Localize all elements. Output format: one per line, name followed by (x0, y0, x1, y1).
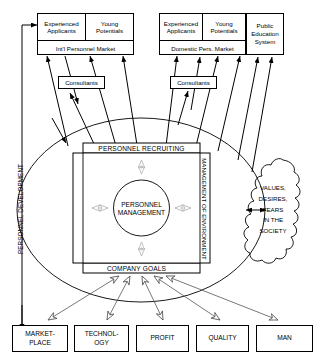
intl-young-line2: Potentials (96, 27, 123, 34)
goal-box-quality: QUALITY (196, 325, 249, 352)
personnel-development-label-wrap: PERSONNEL DEVELOPMENT (15, 149, 25, 269)
center-line1: PERSONNEL (121, 201, 162, 209)
consultants-right-box: Consultants (170, 76, 217, 89)
intl-personnel-market-group: Experienced Applicants Young Potentials … (37, 13, 134, 55)
personnel-recruiting-label-wrap: PERSONNEL RECRUITING (83, 143, 200, 154)
goal-man-line1: MAN (277, 334, 292, 342)
society-line1: VALUES, (260, 183, 286, 194)
goal-marketplace-line1: MARKET- (25, 330, 54, 338)
consultants-left-box: Consultants (58, 76, 105, 89)
goal-technology-line2: OGY (94, 339, 109, 347)
goal-quality-line1: QUALITY (208, 334, 236, 342)
society-line4: IN THE (263, 215, 283, 226)
diagram-canvas: Experienced Applicants Young Potentials … (0, 0, 327, 361)
goal-box-marketplace: MARKET- PLACE (12, 325, 68, 352)
domestic-personnel-market-group: Experienced Applicants Young Potentials … (159, 13, 246, 55)
public-education-system-box: Public Education System (246, 13, 284, 55)
society-line3: FEARS (263, 205, 284, 216)
center-line2: MANAGEMENT (118, 209, 165, 217)
intl-experienced-line1: Experienced (44, 20, 78, 27)
public-education-line2: Education (251, 30, 279, 38)
dom-young-line1: Young (215, 20, 232, 27)
goal-profit-line1: PROFIT (150, 334, 174, 342)
intl-young-line1: Young (101, 20, 118, 27)
society-line2: DESIRES, (259, 194, 288, 205)
goal-box-technology: TECHNOL- OGY (74, 325, 129, 352)
intl-experienced-line2: Applicants (47, 27, 76, 34)
dom-experienced-line1: Experienced (164, 20, 198, 27)
company-goals-label: COMPANY GOALS (107, 265, 166, 272)
society-cloud-label: VALUES, DESIRES, FEARS IN THE SOCIETY (248, 175, 298, 245)
goal-box-man: MAN (256, 325, 313, 352)
personnel-management-center-label: PERSONNEL MANAGEMENT (108, 198, 175, 220)
public-education-line3: System (255, 38, 276, 46)
personnel-recruiting-label: PERSONNEL RECRUITING (98, 145, 184, 152)
consultants-right-label: Consultants (177, 79, 210, 86)
public-education-line1: Public (257, 22, 274, 30)
management-of-environment-label-wrap: MANAGEMENT OF ENVIRONMENT (200, 147, 210, 272)
goal-arrows (48, 276, 278, 320)
personnel-development-label: PERSONNEL DEVELOPMENT (17, 164, 24, 254)
goal-technology-line1: TECHNOL- (85, 330, 119, 338)
consultants-left-label: Consultants (65, 79, 98, 86)
intl-market-label: Int'l Personnel Market (56, 45, 116, 52)
management-of-environment-label: MANAGEMENT OF ENVIRONMENT (201, 158, 208, 260)
dom-experienced-line2: Applicants (167, 27, 196, 34)
dom-young-line2: Potentials (210, 27, 237, 34)
domestic-market-label: Domestic Pers. Market (171, 45, 234, 52)
company-goals-label-wrap: COMPANY GOALS (73, 263, 200, 274)
goal-marketplace-line2: PLACE (29, 339, 51, 347)
society-line5: SOCIETY (259, 226, 286, 237)
goal-box-profit: PROFIT (136, 325, 189, 352)
